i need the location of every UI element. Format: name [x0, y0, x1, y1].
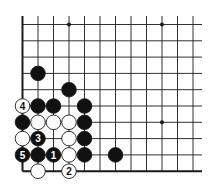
- move-number-label: 3: [35, 133, 41, 144]
- white-stone-move-2: 2: [62, 164, 77, 179]
- star-point-hoshi: [160, 120, 164, 124]
- black-stone-icon: [77, 131, 92, 146]
- black-stone-icon: [31, 148, 46, 163]
- black-stone-icon: [77, 115, 92, 130]
- star-point-hoshi: [67, 23, 71, 27]
- white-stone-move-4: 4: [15, 99, 30, 114]
- black-stone: [77, 115, 92, 130]
- black-stone-icon: [62, 82, 77, 97]
- black-stone-icon: [31, 66, 46, 81]
- white-stone: [62, 115, 77, 130]
- move-number-label: 5: [20, 150, 26, 161]
- white-stone-icon: [31, 115, 46, 130]
- white-stone: [62, 148, 77, 163]
- white-stone-icon: [31, 164, 46, 179]
- white-stone: [31, 164, 46, 179]
- black-stone-move-3: 3: [31, 131, 46, 146]
- black-stone: [46, 99, 61, 114]
- black-stone: [31, 99, 46, 114]
- black-stone-icon: [77, 148, 92, 163]
- black-stone: [108, 148, 123, 163]
- black-stone-move-1: 1: [46, 148, 61, 163]
- white-stone-icon: [62, 148, 77, 163]
- move-number-label: 2: [66, 166, 72, 177]
- go-board-diagram: 43512: [0, 0, 217, 189]
- black-stone-icon: [77, 99, 92, 114]
- black-stone-move-5: 5: [15, 148, 30, 163]
- white-stone: [31, 115, 46, 130]
- black-stone: [77, 99, 92, 114]
- black-stone: [15, 115, 30, 130]
- black-stone: [31, 148, 46, 163]
- white-stone: [46, 115, 61, 130]
- white-stone: [62, 131, 77, 146]
- white-stone-icon: [46, 115, 61, 130]
- black-stone: [77, 131, 92, 146]
- black-stone-icon: [46, 99, 61, 114]
- white-stone-icon: [62, 131, 77, 146]
- white-stone-icon: [15, 131, 30, 146]
- white-stone-icon: [62, 115, 77, 130]
- black-stone: [77, 148, 92, 163]
- black-stone-icon: [108, 148, 123, 163]
- black-stone: [62, 82, 77, 97]
- black-stone-icon: [31, 99, 46, 114]
- star-point-hoshi: [160, 23, 164, 27]
- black-stone-icon: [15, 115, 30, 130]
- move-number-label: 4: [20, 101, 26, 112]
- black-stone: [31, 66, 46, 81]
- white-stone: [15, 131, 30, 146]
- move-number-label: 1: [51, 150, 57, 161]
